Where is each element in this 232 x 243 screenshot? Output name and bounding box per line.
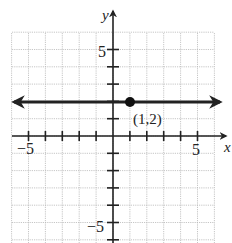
x-tick-label-5: 5 xyxy=(192,141,200,158)
x-axis-label: x xyxy=(223,139,231,155)
y-axis-label: y xyxy=(100,7,109,23)
point-label: (1,2) xyxy=(133,111,162,128)
coordinate-plane: y x 5 −5 −5 5 (1,2) xyxy=(0,0,232,243)
y-tick-label-5: 5 xyxy=(98,43,106,60)
point-1-2 xyxy=(125,97,135,107)
y-tick-label-neg5: −5 xyxy=(87,218,104,235)
x-tick-label-neg5: −5 xyxy=(17,140,34,157)
